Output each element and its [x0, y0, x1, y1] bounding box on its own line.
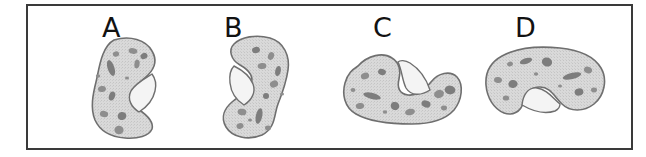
blob-shape-b: [204, 34, 304, 142]
blob-notch-c: [398, 61, 430, 95]
figure-label-c: C: [373, 14, 392, 41]
blob-shape-a: [80, 34, 180, 142]
figure-panel: A: [26, 4, 633, 150]
figure-canvas: A: [28, 6, 631, 148]
blob-shape-c: [338, 46, 466, 130]
figure-label-d: D: [515, 14, 536, 41]
blob-shape-d: [480, 42, 608, 126]
